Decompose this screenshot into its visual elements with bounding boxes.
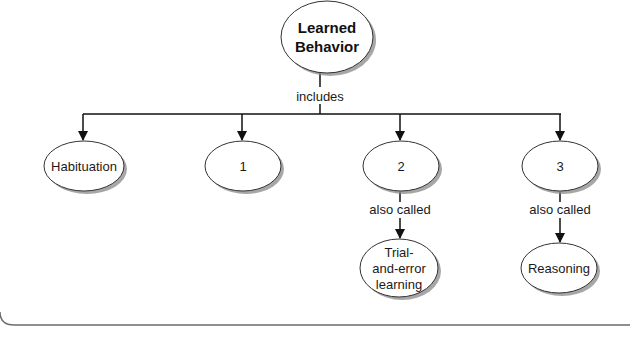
node-reasoning: Reasoning: [521, 243, 600, 296]
concept-map: LearnedBehaviorHabituation12Trial-and-er…: [0, 0, 630, 339]
node-n3: 3: [522, 141, 601, 194]
frame-border: [0, 312, 630, 325]
node-root: LearnedBehavior: [281, 1, 376, 76]
node-label: learning: [376, 277, 422, 292]
node-n2: 2: [363, 141, 442, 194]
node-label: 2: [397, 159, 404, 174]
node-n1: 1: [205, 141, 284, 194]
edge-label-also-called-2: also called: [369, 202, 430, 217]
node-label: Trial-: [384, 245, 413, 260]
node-label: 1: [239, 159, 246, 174]
node-label: and-error: [372, 261, 426, 276]
edge-label-includes: includes: [296, 89, 344, 104]
edge-label-also-called-3: also called: [529, 202, 590, 217]
node-label: Behavior: [295, 38, 359, 55]
node-label: Reasoning: [528, 261, 590, 276]
node-trial: Trial-and-errorlearning: [360, 239, 441, 300]
node-label: Habituation: [51, 159, 117, 174]
node-habituation: Habituation: [44, 141, 127, 194]
node-label: 3: [556, 159, 563, 174]
node-label: Learned: [298, 19, 356, 36]
